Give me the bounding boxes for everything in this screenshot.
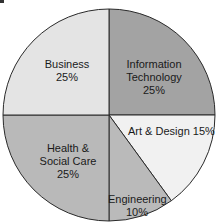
label-engineering-name: Engineering — [108, 193, 166, 206]
label-health-line2: Social Care — [38, 155, 98, 168]
label-it-line1: Information — [124, 58, 184, 71]
label-health-line1: Health & — [38, 142, 98, 155]
pie-chart — [0, 0, 218, 224]
label-art-design-text: Art & Design 15% — [128, 125, 212, 138]
label-business-value: 25% — [42, 71, 92, 84]
label-art-design: Art & Design 15% — [128, 125, 212, 138]
label-business-name: Business — [42, 58, 92, 71]
label-business: Business 25% — [42, 58, 92, 84]
label-engineering-value: 10% — [108, 206, 166, 219]
label-health-social-care: Health & Social Care 25% — [38, 142, 98, 181]
label-information-technology: Information Technology 25% — [124, 58, 184, 97]
label-health-value: 25% — [38, 168, 98, 181]
label-engineering: Engineering 10% — [108, 193, 166, 219]
label-it-line2: Technology — [124, 71, 184, 84]
label-it-value: 25% — [124, 84, 184, 97]
